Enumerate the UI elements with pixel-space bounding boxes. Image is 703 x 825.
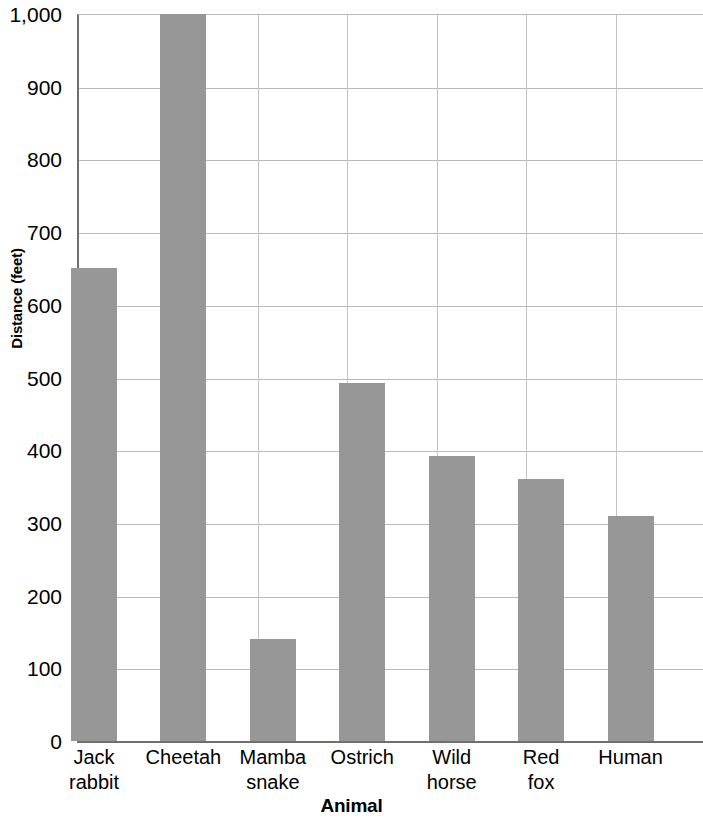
y-axis-tick-label: 700 (27, 222, 62, 243)
bar (429, 456, 475, 741)
bar (608, 516, 654, 741)
y-axis-tick-label: 1,000 (9, 4, 62, 25)
y-axis-tick-label: 900 (27, 76, 62, 97)
x-axis-tick-label: Cheetah (139, 745, 228, 770)
bar (250, 639, 296, 741)
y-axis-tick-label: 500 (27, 367, 62, 388)
bars-layer (77, 14, 703, 741)
bar (518, 479, 564, 741)
x-axis-tick-label: Jack rabbit (49, 745, 138, 795)
bar-chart: Distance (feet) 010020030040050060070080… (0, 0, 703, 825)
bar (71, 268, 117, 741)
x-axis-tick-label: Red fox (496, 745, 585, 795)
x-axis-tick-label: Wild horse (407, 745, 496, 795)
y-axis-tick-label: 300 (27, 512, 62, 533)
y-axis-tick-label: 400 (27, 440, 62, 461)
y-axis-tick-label: 800 (27, 149, 62, 170)
x-axis-line (77, 741, 703, 743)
y-axis-tick-label: 200 (27, 585, 62, 606)
bar (339, 383, 385, 741)
x-axis-tick-label: Human (586, 745, 675, 770)
y-axis-tick-label: 100 (27, 658, 62, 679)
y-axis-tick-label: 600 (27, 294, 62, 315)
y-axis-tick-labels: 01002003004005006007008009001,000 (0, 0, 70, 825)
x-axis-tick-label: Mamba snake (228, 745, 317, 795)
x-axis-tick-label: Ostrich (318, 745, 407, 770)
bar (160, 14, 206, 741)
x-axis-title: Animal (0, 795, 703, 817)
